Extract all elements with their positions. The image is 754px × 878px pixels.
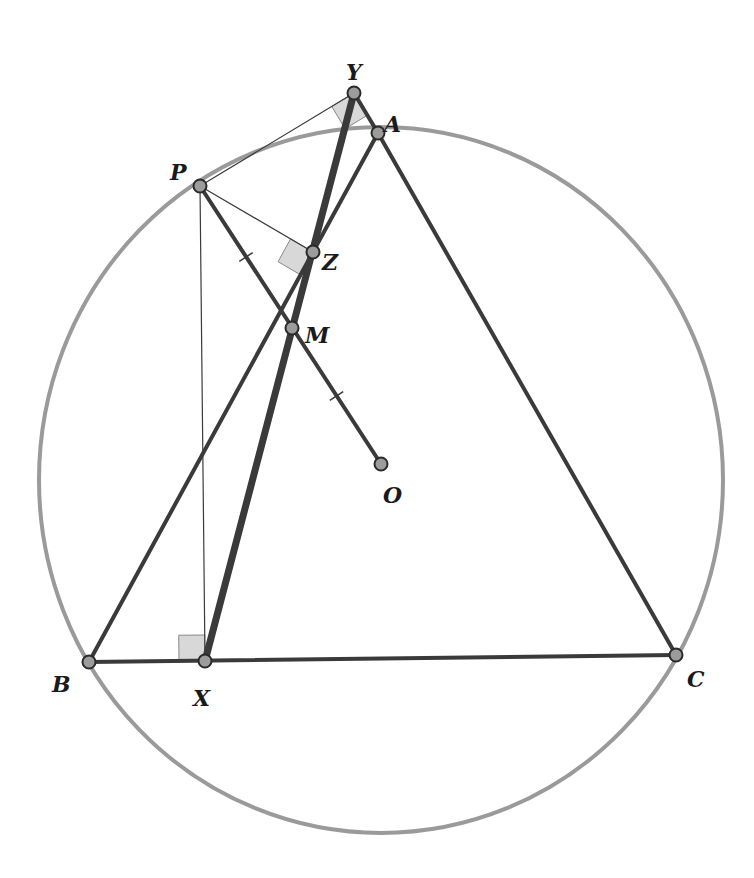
point-b	[83, 656, 96, 669]
perpendicular-pz	[200, 186, 313, 252]
label-o: O	[383, 482, 402, 508]
point-x	[199, 655, 212, 668]
label-b: B	[51, 671, 71, 697]
point-a	[372, 127, 385, 140]
point-p	[194, 180, 207, 193]
point-m	[286, 322, 299, 335]
simson-line-xy	[205, 93, 354, 661]
label-a: A	[382, 111, 401, 137]
circumcircle	[39, 127, 723, 833]
label-x: X	[191, 685, 211, 711]
label-p: P	[169, 159, 188, 185]
geometry-diagram: YAPZMOBXC	[0, 0, 754, 878]
perpendicular-px	[200, 186, 205, 661]
side-bc	[89, 655, 676, 662]
label-y: Y	[346, 59, 364, 85]
label-m: M	[304, 322, 330, 348]
side-ac	[378, 133, 676, 655]
point-y	[348, 87, 361, 100]
point-labels: YAPZMOBXC	[51, 59, 705, 711]
circle-o	[39, 127, 723, 833]
point-c	[670, 649, 683, 662]
point-o	[375, 458, 388, 471]
label-z: Z	[321, 249, 339, 275]
label-c: C	[687, 666, 705, 692]
point-z	[307, 246, 320, 259]
